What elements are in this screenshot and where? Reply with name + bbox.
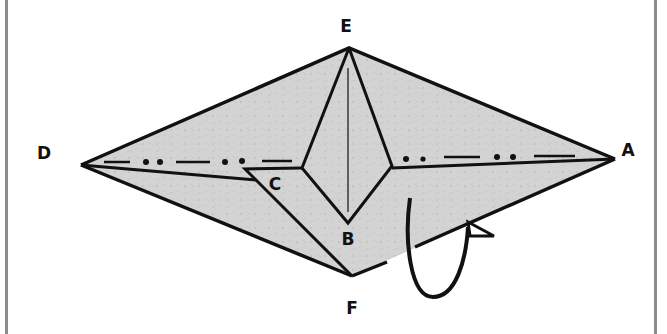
label-a: A [621, 140, 635, 160]
label-e: E [340, 16, 352, 36]
label-c: C [269, 174, 281, 194]
label-b: B [342, 229, 355, 249]
origami-diagram: E D A C B F [0, 0, 667, 334]
label-f: F [346, 298, 358, 318]
label-d: D [37, 143, 51, 163]
